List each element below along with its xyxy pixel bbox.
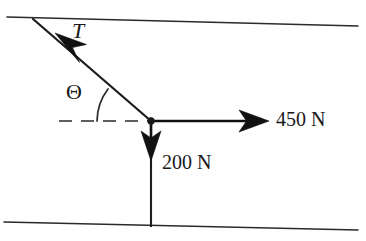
vertical-force-label: 200 N — [162, 152, 211, 172]
horizontal-force-label: 450 N — [276, 109, 325, 129]
force-diagram-figure: T Θ 450 N 200 N — [0, 0, 366, 241]
bottom-wall-line — [4, 222, 358, 230]
angle-arc — [97, 89, 108, 121]
tension-cable-line — [33, 19, 151, 121]
tension-label: T — [72, 20, 84, 42]
top-wall-line — [7, 17, 358, 26]
angle-theta-label: Θ — [66, 81, 82, 103]
force-junction-node — [148, 118, 155, 125]
